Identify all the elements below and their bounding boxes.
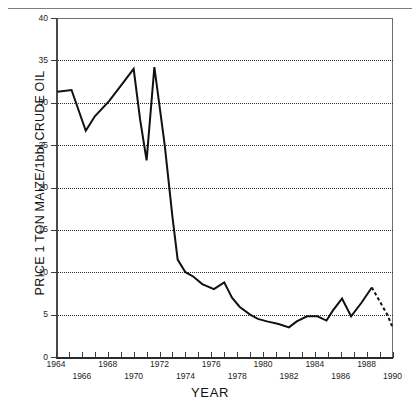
x-axis-title: YEAR	[0, 385, 420, 400]
line-chart: 0510152025303540 19641968197219761980198…	[0, 0, 420, 410]
series-line-projection	[372, 288, 393, 328]
series-line	[57, 67, 372, 327]
chart-page: 0510152025303540 19641968197219761980198…	[0, 0, 420, 410]
y-axis-title: PRICE 1 TON MAIZE/1bbl.CRUDE OIL	[33, 33, 47, 333]
series-plot	[0, 0, 420, 410]
